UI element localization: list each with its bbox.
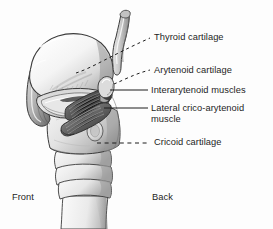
- label-thyroid-cartilage: Thyroid cartilage: [154, 32, 224, 43]
- label-arytenoid-cartilage: Arytenoid cartilage: [154, 65, 232, 76]
- orientation-label-front: Front: [12, 192, 34, 202]
- trachea-descending: [61, 196, 108, 229]
- tracheal-rings: [55, 148, 113, 199]
- label-lateral-crico-arytenoid-muscle: Lateral crico-arytenoid muscle: [151, 103, 244, 125]
- anatomy-figure: Thyroid cartilage Arytenoid cartilage In…: [0, 0, 273, 229]
- label-interarytenoid-muscles: Interarytenoid muscles: [151, 85, 246, 96]
- thyroid-superior-horn: [113, 10, 131, 75]
- label-cricoid-cartilage: Cricoid cartilage: [154, 137, 222, 148]
- orientation-label-back: Back: [152, 192, 173, 202]
